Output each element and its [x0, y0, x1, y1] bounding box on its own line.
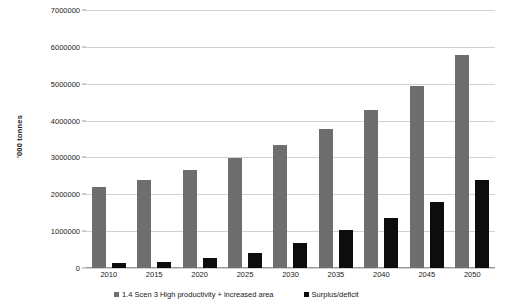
x-axis-tick-label: 2030	[268, 270, 313, 286]
y-axis-tick-label: 7000000	[51, 6, 80, 15]
bar[interactable]	[339, 230, 353, 268]
chart-legend: 1.4 Scen 3 High productivity + increased…	[86, 287, 495, 301]
y-axis-tick-label: 4000000	[51, 116, 80, 125]
bar[interactable]	[157, 262, 171, 268]
x-axis-tick-label: 2020	[177, 270, 222, 286]
bar-group	[131, 10, 176, 268]
bar[interactable]	[475, 180, 489, 268]
legend-swatch-icon	[114, 292, 119, 297]
x-axis-tick-label: 2025	[222, 270, 267, 286]
bar[interactable]	[273, 145, 287, 268]
x-axis-tick-labels: 201020152020202520302035204020452050	[86, 270, 495, 286]
y-axis-tick-label: 6000000	[51, 42, 80, 51]
gridline	[86, 268, 495, 269]
bar[interactable]	[410, 86, 424, 268]
legend-item[interactable]: Surplus/deficit	[304, 290, 359, 299]
bar[interactable]	[228, 158, 242, 268]
bar[interactable]	[455, 55, 469, 268]
bar[interactable]	[183, 170, 197, 268]
x-axis-tick-label: 2045	[404, 270, 449, 286]
x-axis-tick-label: 2015	[131, 270, 176, 286]
y-axis-tick-label: 0	[76, 264, 80, 273]
bar-group	[313, 10, 358, 268]
x-axis-tick-label: 2010	[86, 270, 131, 286]
bar-chart: '000 tonnes 0100000020000003000000400000…	[0, 0, 511, 307]
bar-group	[404, 10, 449, 268]
y-axis-tick-label: 1000000	[51, 227, 80, 236]
x-axis-tick-label: 2035	[313, 270, 358, 286]
bar[interactable]	[293, 243, 307, 268]
bar-group	[450, 10, 495, 268]
bar-group	[268, 10, 313, 268]
bar-group	[86, 10, 131, 268]
x-axis-tick-label: 2050	[450, 270, 495, 286]
y-axis-tick-labels: 0100000020000003000000400000050000006000…	[34, 0, 86, 272]
plot-area	[86, 10, 495, 268]
bar-group	[177, 10, 222, 268]
bar[interactable]	[248, 253, 262, 268]
x-axis-tick-label: 2040	[359, 270, 404, 286]
legend-item[interactable]: 1.4 Scen 3 High productivity + increased…	[114, 290, 274, 299]
legend-swatch-icon	[304, 292, 309, 297]
legend-item-label: Surplus/deficit	[312, 290, 359, 299]
bar-group	[359, 10, 404, 268]
y-axis-title-label: '000 tonnes	[16, 114, 25, 157]
bar[interactable]	[203, 258, 217, 268]
bar[interactable]	[364, 110, 378, 268]
bar[interactable]	[92, 187, 106, 268]
bar[interactable]	[112, 263, 126, 268]
y-axis-tick-label: 5000000	[51, 79, 80, 88]
bar[interactable]	[137, 180, 151, 268]
y-axis-tick-label: 3000000	[51, 153, 80, 162]
bar[interactable]	[319, 129, 333, 268]
bar[interactable]	[430, 202, 444, 268]
bar[interactable]	[384, 218, 398, 268]
y-axis-tick-label: 2000000	[51, 190, 80, 199]
bar-groups	[86, 10, 495, 268]
bar-group	[222, 10, 267, 268]
legend-item-label: 1.4 Scen 3 High productivity + increased…	[122, 290, 274, 299]
